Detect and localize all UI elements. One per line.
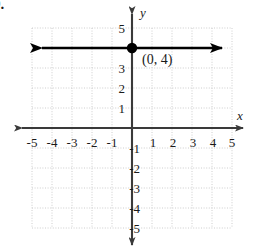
x-tick: -1: [107, 135, 118, 150]
x-tick: 3: [190, 135, 197, 150]
x-tick: -4: [47, 135, 58, 150]
point-label: (0, 4): [142, 52, 173, 68]
x-tick: -3: [67, 135, 78, 150]
plotted-point: [127, 43, 137, 53]
x-tick: 5: [229, 135, 236, 150]
y-tick: 1: [119, 101, 126, 116]
y-tick: 2: [119, 81, 126, 96]
y-tick: 3: [119, 61, 126, 76]
y-tick: 5: [119, 21, 126, 36]
y-tick: -3: [129, 181, 140, 196]
x-tick: -5: [27, 135, 38, 150]
x-tick: 4: [210, 135, 217, 150]
y-tick: -1: [129, 141, 140, 156]
y-tick: -2: [129, 161, 140, 176]
coordinate-plane-figure: 9.: [0, 0, 258, 251]
y-tick: -5: [129, 221, 140, 236]
coordinate-plot: x y -5 -4 -3 -2 -1 1 2 3 4 5 5 3 2 1 -1 …: [0, 0, 258, 251]
y-tick: -4: [129, 201, 140, 216]
x-tick: 1: [150, 135, 157, 150]
y-axis-letter: y: [138, 5, 146, 20]
x-tick: -2: [87, 135, 98, 150]
x-axis-letter: x: [236, 108, 243, 123]
x-tick: 2: [170, 135, 177, 150]
